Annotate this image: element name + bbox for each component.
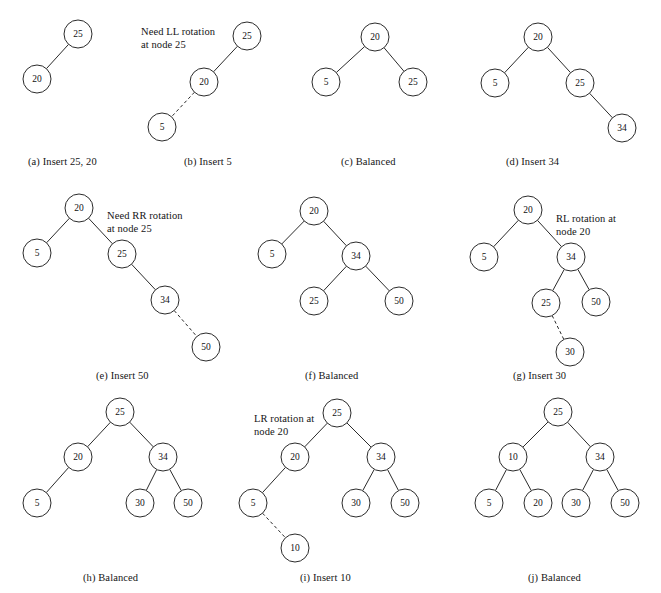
node-label: 34	[595, 452, 605, 462]
tree-edge	[578, 269, 589, 290]
tree-edge	[347, 423, 371, 447]
tree-edge-dashed	[172, 92, 195, 117]
tree-node: 20	[65, 194, 93, 222]
tree-edge	[324, 221, 347, 246]
node-label: 5	[35, 498, 40, 508]
panel-caption-a: (a) Insert 25, 20	[28, 156, 97, 167]
rotation-annotation-b: Need LL rotation at node 25	[141, 26, 215, 51]
node-label: 34	[160, 295, 170, 305]
tree-edge	[282, 221, 304, 244]
node-label: 34	[376, 452, 386, 462]
panel-caption-b: (b) Insert 5	[184, 156, 232, 167]
tree-edge	[384, 48, 404, 72]
tree-node: 5	[239, 489, 267, 517]
tree-node: 5	[23, 489, 51, 517]
tree-edge	[520, 469, 532, 490]
panel-caption-d: (d) Insert 34	[506, 156, 559, 167]
tree-edge	[523, 422, 548, 447]
tree-edge	[46, 44, 68, 68]
tree-edge	[262, 467, 285, 492]
tree-panel-c: 20525	[312, 23, 427, 96]
tree-node: 50	[391, 489, 419, 517]
panel-caption-e: (e) Insert 50	[96, 370, 149, 381]
node-label: 5	[35, 248, 40, 258]
tree-node: 25	[566, 69, 594, 97]
tree-node: 20	[300, 197, 328, 225]
node-label: 34	[617, 123, 627, 133]
node-label: 25	[553, 407, 563, 417]
node-label: 5	[324, 77, 329, 87]
node-label: 5	[493, 78, 498, 88]
node-label: 25	[115, 407, 125, 417]
tree-node: 25	[64, 20, 92, 48]
tree-node: 25	[532, 289, 560, 317]
node-label: 25	[309, 296, 319, 306]
tree-node: 25	[106, 398, 134, 426]
tree-node: 25	[399, 68, 427, 96]
tree-edge	[495, 469, 506, 490]
node-label: 5	[270, 249, 275, 259]
tree-edge	[88, 422, 111, 447]
node-label: 10	[290, 543, 300, 553]
tree-node: 34	[367, 443, 395, 471]
node-label: 50	[183, 498, 193, 508]
tree-node: 25	[300, 287, 328, 315]
rotation-annotation-i: LR rotation at node 20	[254, 413, 314, 438]
panel-caption-i: (i) Insert 10	[300, 572, 351, 583]
tree-edge	[132, 264, 156, 290]
tree-node: 5	[23, 239, 51, 267]
node-label: 50	[591, 297, 601, 307]
node-label: 5	[487, 498, 492, 508]
node-label: 50	[400, 498, 410, 508]
tree-node: 5	[258, 240, 286, 268]
tree-node: 25	[544, 398, 572, 426]
tree-edge-dashed	[552, 316, 564, 340]
tree-edge	[170, 469, 182, 490]
panel-caption-h: (h) Balanced	[83, 572, 138, 583]
node-label: 25	[408, 77, 418, 87]
tree-node: 10	[281, 534, 309, 562]
node-label: 5	[482, 252, 487, 262]
node-label: 20	[533, 32, 543, 42]
tree-node: 30	[562, 489, 590, 517]
tree-edge	[607, 469, 619, 490]
rotation-annotation-g: RL rotation at node 20	[556, 213, 616, 238]
node-label: 20	[32, 74, 42, 84]
avl-rotation-figure: 2520252052052520525342052534502053425502…	[0, 0, 661, 593]
node-label: 25	[541, 298, 551, 308]
tree-node: 50	[611, 489, 639, 517]
node-label: 25	[242, 31, 252, 41]
tree-edge	[146, 470, 156, 491]
tree-node: 25	[108, 240, 136, 268]
tree-edge	[46, 467, 68, 492]
tree-edge	[582, 469, 593, 490]
panel-caption-g: (g) Insert 30	[513, 370, 566, 381]
tree-panel-h: 25203453050	[23, 398, 202, 517]
tree-edge	[47, 218, 70, 243]
tree-node: 20	[190, 68, 218, 96]
tree-edge	[547, 47, 570, 72]
tree-node: 25	[233, 22, 261, 50]
tree-node: 20	[524, 489, 552, 517]
tree-panel-f: 205342550	[258, 197, 413, 315]
tree-node: 5	[148, 113, 176, 141]
tree-node: 20	[524, 23, 552, 51]
node-label: 5	[160, 122, 165, 132]
node-label: 34	[566, 252, 576, 262]
node-label: 20	[199, 77, 209, 87]
tree-node: 50	[192, 333, 220, 361]
tree-panel-j: 2510345203050	[475, 398, 639, 517]
tree-edge	[387, 469, 398, 490]
tree-node: 34	[586, 443, 614, 471]
panel-caption-j: (j) Balanced	[528, 572, 581, 583]
tree-node: 10	[499, 443, 527, 471]
node-label: 50	[394, 296, 404, 306]
tree-node: 5	[312, 68, 340, 96]
node-label: 5	[251, 498, 256, 508]
tree-edge-dashed	[263, 513, 286, 538]
tree-edge	[494, 220, 519, 247]
tree-drawing-layer: 2520252052052520525342052534502053425502…	[0, 0, 661, 593]
tree-node: 25	[323, 399, 351, 427]
tree-node: 50	[385, 287, 413, 315]
tree-edge	[366, 266, 390, 291]
